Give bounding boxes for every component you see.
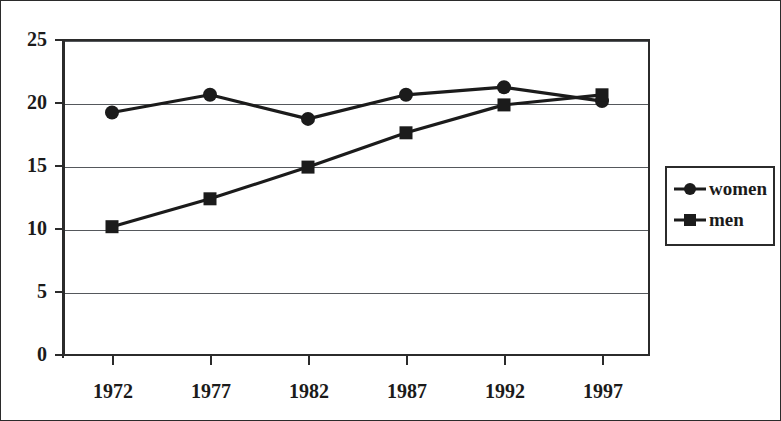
y-tick-5	[55, 291, 64, 293]
x-axis-label-1992: 1992	[460, 380, 550, 402]
x-axis-label-1997: 1997	[558, 380, 648, 402]
y-axis-label-5: 5	[7, 281, 47, 301]
y-axis-label-15: 15	[7, 155, 47, 175]
x-tick-1997	[602, 356, 604, 365]
y-axis-line	[62, 39, 64, 358]
plot-area	[63, 39, 650, 356]
y-axis-label-10: 10	[7, 218, 47, 238]
x-axis-label-1982: 1982	[264, 380, 354, 402]
y-axis-label-20: 20	[7, 92, 47, 112]
y-tick-20	[55, 102, 64, 104]
y-tick-10	[55, 228, 64, 230]
gridline-25	[65, 41, 648, 42]
x-tick-1982	[308, 356, 310, 365]
legend-label-men: men	[709, 210, 744, 230]
y-tick-15	[55, 165, 64, 167]
x-axis-label-1972: 1972	[68, 380, 158, 402]
x-tick-1987	[406, 356, 408, 365]
circle-marker-icon	[673, 179, 707, 199]
legend-entry-women: women	[673, 175, 773, 203]
x-tick-1977	[210, 356, 212, 365]
y-tick-25	[55, 39, 64, 41]
gridline-10	[65, 230, 648, 231]
y-axis-label-0: 0	[7, 344, 47, 364]
x-tick-1972	[112, 356, 114, 365]
gridline-20	[65, 104, 648, 105]
square-marker-icon	[673, 210, 707, 230]
y-tick-0	[55, 354, 64, 356]
x-tick-1992	[504, 356, 506, 365]
legend-label-women: women	[709, 179, 767, 199]
y-axis-label-25: 25	[7, 29, 47, 49]
gridline-15	[65, 167, 648, 168]
gridline-5	[65, 293, 648, 294]
x-axis-label-1977: 1977	[166, 380, 256, 402]
chart-figure: 25 20 15 10 5 0 1972 1977 1982 1987 1992…	[0, 0, 781, 421]
legend-entry-men: men	[673, 206, 773, 234]
legend: women men	[665, 166, 775, 246]
x-axis-label-1987: 1987	[362, 380, 452, 402]
